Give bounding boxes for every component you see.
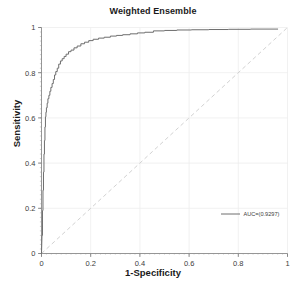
y-tick-label: 0 <box>31 249 35 258</box>
y-tick-label: 0.4 <box>25 159 35 168</box>
y-tick-labels-group: 00.20.40.60.81 <box>25 23 35 258</box>
y-tick-label: 1 <box>31 23 35 32</box>
x-axis-label: 1-Specificity <box>0 267 306 278</box>
y-tick-label: 0.6 <box>25 114 35 123</box>
plot-canvas: 00.20.40.60.81 00.20.40.60.81 AUC=(0.929… <box>0 0 306 293</box>
y-tick-label: 0.2 <box>25 204 35 213</box>
y-tick-label: 0.8 <box>25 69 35 78</box>
roc-chart-figure: Weighted Ensemble 00.20.40.60.81 00.20.4… <box>0 0 306 293</box>
roc-curve-group <box>42 29 278 253</box>
legend: AUC=(0.9297) <box>221 211 280 217</box>
chance-diagonal-line <box>42 28 288 254</box>
y-axis-label: Sensitivity <box>11 84 22 164</box>
legend-label: AUC=(0.9297) <box>244 211 280 217</box>
